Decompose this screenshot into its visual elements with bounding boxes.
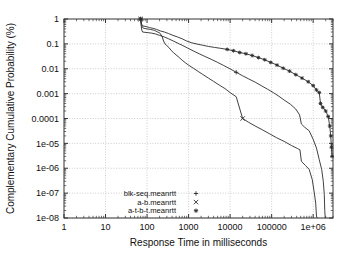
series-marker [250, 54, 254, 58]
series-marker [321, 105, 325, 109]
ccdf-line-chart: 1101001000100001000001e+0610.10.010.0010… [0, 0, 348, 265]
x-tick-label: 100000 [257, 222, 287, 232]
series-marker [275, 63, 279, 67]
series-marker [306, 80, 310, 84]
series-marker [194, 200, 198, 204]
series-marker [194, 191, 198, 195]
series-marker [257, 56, 261, 60]
series-marker [328, 124, 332, 128]
data-series [138, 17, 325, 218]
series-marker [138, 17, 142, 21]
series-marker [263, 58, 267, 62]
series-marker [317, 91, 321, 95]
series-marker [232, 49, 236, 53]
y-axis-label: Complementary Cumulative Probability (%) [5, 23, 16, 214]
series-marker [294, 73, 298, 77]
tick-labels: 1101001000100001000001e+0610.10.010.0010… [31, 14, 325, 232]
y-tick-label: 1e-07 [36, 188, 59, 198]
grid-lines [64, 19, 333, 218]
series-marker [326, 115, 330, 119]
series-marker [269, 61, 273, 65]
y-tick-label: 1e-06 [36, 163, 59, 173]
y-tick-label: 0.0001 [31, 114, 59, 124]
legend-label: a-t-b-t.meanrtt [128, 206, 177, 215]
series-marker [225, 47, 229, 51]
series-marker [329, 134, 333, 138]
y-tick-label: 0.001 [36, 89, 59, 99]
y-tick-label: 1e-05 [36, 139, 59, 149]
series-marker [288, 69, 292, 73]
chart-container: 1101001000100001000001e+0610.10.010.0010… [0, 0, 348, 265]
x-tick-label: 10 [101, 222, 111, 232]
x-tick-label: 100 [140, 222, 155, 232]
series-marker [330, 145, 334, 149]
x-tick-label: 10000 [218, 222, 243, 232]
series-marker [300, 76, 304, 80]
y-tick-label: 1 [54, 14, 59, 24]
series-marker [194, 209, 198, 213]
data-series [138, 17, 317, 218]
x-tick-label: 1e+06 [301, 222, 326, 232]
axis-ticks [64, 19, 333, 218]
series-marker [330, 154, 334, 158]
series-marker [281, 66, 285, 70]
x-axis-label: Response Time in milliseconds [130, 237, 267, 248]
series-marker [234, 70, 238, 74]
series-marker [319, 102, 323, 106]
series-marker [238, 51, 242, 55]
y-tick-label: 1e-08 [36, 213, 59, 223]
y-tick-label: 0.01 [41, 64, 59, 74]
plot-frame [64, 19, 333, 218]
series-marker [244, 52, 248, 56]
y-tick-label: 0.1 [46, 39, 59, 49]
series-marker [311, 84, 315, 88]
data-series-layer [138, 17, 334, 218]
series-marker [324, 109, 328, 113]
x-tick-label: 1000 [179, 222, 199, 232]
x-tick-label: 1 [61, 222, 66, 232]
